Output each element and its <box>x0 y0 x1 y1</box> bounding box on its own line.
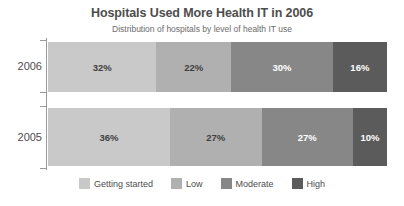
bar-segment-label: 27% <box>298 132 317 143</box>
legend-swatch-icon <box>221 178 232 189</box>
legend-label: Getting started <box>94 179 153 189</box>
legend-item[interactable]: Getting started <box>79 178 153 189</box>
bar-segment: 22% <box>156 42 231 92</box>
chart-subtitle: Distribution of hospitals by level of he… <box>0 24 404 34</box>
category-label-2006: 2006 <box>8 60 42 72</box>
legend-label: Moderate <box>236 179 274 189</box>
bar-segment: 10% <box>353 108 387 166</box>
bar-segment: 30% <box>231 42 333 92</box>
bar-segment-label: 16% <box>350 62 369 73</box>
chart-legend: Getting startedLowModerateHigh <box>0 178 404 189</box>
bar-2006: 32%22%30%16% <box>48 42 387 92</box>
bar-2005: 36%27%27%10% <box>48 108 387 166</box>
bar-segment: 36% <box>48 108 170 166</box>
legend-item[interactable]: Low <box>171 178 203 189</box>
bar-segment-label: 32% <box>93 62 112 73</box>
axis-tick-top <box>40 40 47 41</box>
legend-swatch-icon <box>292 178 303 189</box>
bar-segment-label: 36% <box>100 132 119 143</box>
bar-segment: 27% <box>262 108 354 166</box>
axis-tick-2005-start <box>40 106 47 107</box>
stacked-bar-chart: Hospitals Used More Health IT in 2006 Di… <box>0 0 404 206</box>
chart-title: Hospitals Used More Health IT in 2006 <box>0 6 404 20</box>
legend-item[interactable]: High <box>292 178 326 189</box>
plot-area: 32%22%30%16% 36%27%27%10% <box>48 40 387 168</box>
legend-swatch-icon <box>171 178 182 189</box>
bar-segment: 32% <box>48 42 156 92</box>
bar-segment: 16% <box>333 42 387 92</box>
bar-segment-label: 27% <box>206 132 225 143</box>
bar-segment: 27% <box>170 108 262 166</box>
legend-swatch-icon <box>79 178 90 189</box>
legend-label: Low <box>186 179 203 189</box>
axis-tick-2006-end <box>40 92 47 93</box>
bar-segment-label: 30% <box>272 62 291 73</box>
category-label-2005: 2005 <box>8 131 42 143</box>
legend-item[interactable]: Moderate <box>221 178 274 189</box>
bar-segment-label: 10% <box>361 132 380 143</box>
legend-label: High <box>307 179 326 189</box>
y-axis-line <box>46 38 47 170</box>
axis-tick-bottom <box>40 168 47 169</box>
bar-segment-label: 22% <box>184 62 203 73</box>
